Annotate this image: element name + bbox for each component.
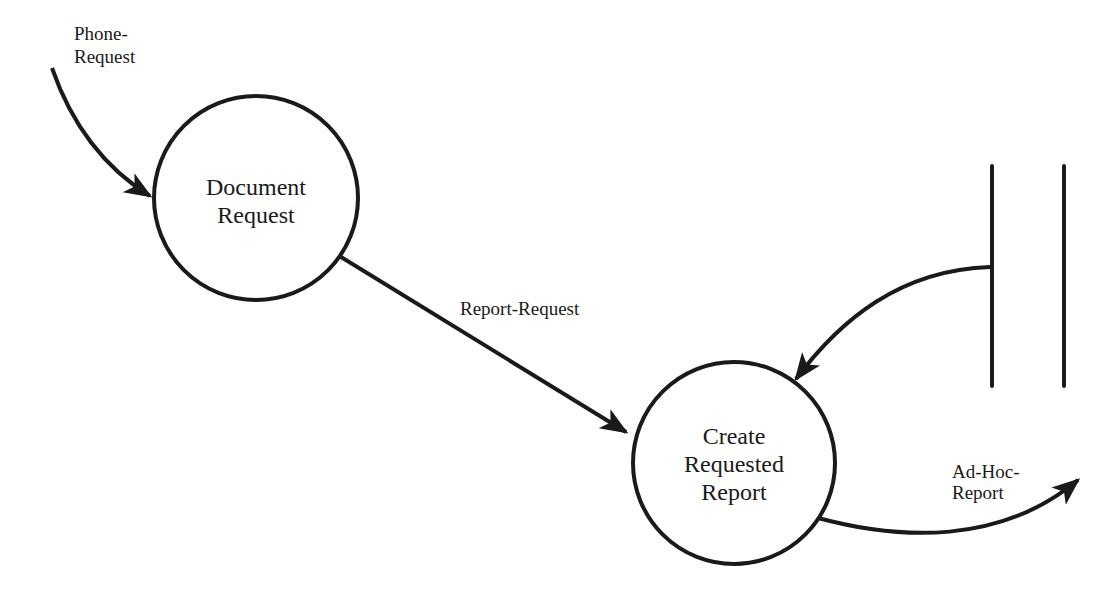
process-label-1: Create [703, 423, 766, 449]
report-request-arrow [341, 257, 626, 432]
process-label-2: Requested [684, 451, 784, 477]
process-document-request[interactable]: Document Request [154, 96, 358, 300]
flow-ad-hoc-report: Ad-Hoc- Report [818, 461, 1078, 533]
flow-report-request: Report-Request [341, 257, 626, 432]
phone-request-label-2: Request [74, 46, 136, 67]
report-request-label: Report-Request [460, 298, 580, 319]
process-label-3: Report [701, 479, 767, 505]
process-label-2: Request [217, 202, 295, 228]
process-label-1: Document [206, 174, 306, 200]
data-flow-diagram: Phone- Request Document Request Report-R… [0, 0, 1120, 592]
ad-hoc-report-arrow [818, 480, 1078, 533]
ad-hoc-report-label-1: Ad-Hoc- [952, 461, 1020, 482]
flow-phone-request: Phone- Request [52, 23, 150, 196]
phone-request-arrow [52, 68, 150, 196]
ad-hoc-report-label-2: Report [952, 482, 1004, 503]
process-create-requested-report[interactable]: Create Requested Report [633, 362, 835, 564]
phone-request-label-1: Phone- [74, 23, 128, 44]
store-read-arrow [796, 267, 990, 379]
data-store[interactable] [992, 166, 1064, 386]
